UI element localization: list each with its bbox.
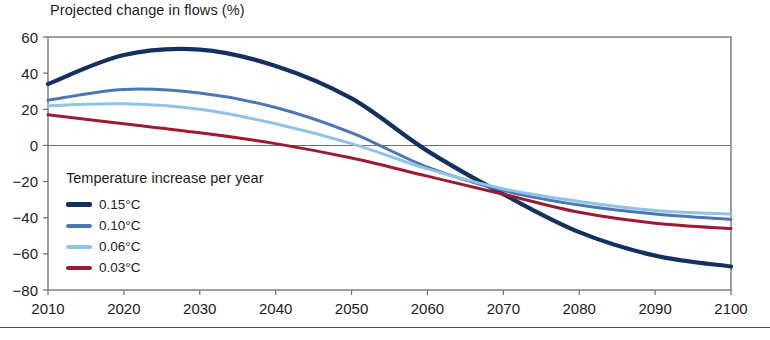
y-tick-label: 0 bbox=[30, 137, 38, 154]
y-tick-label: 40 bbox=[21, 65, 38, 82]
legend-item-0[interactable]: 0.15°C bbox=[66, 197, 140, 212]
series-line-0.10°C bbox=[48, 89, 731, 219]
y-axis-tick-marks bbox=[43, 37, 48, 290]
legend-label-1: 0.10°C bbox=[99, 218, 140, 233]
y-tick-label: −40 bbox=[13, 209, 38, 226]
x-tick-label: 2090 bbox=[638, 300, 671, 317]
x-tick-label: 2020 bbox=[107, 300, 140, 317]
x-tick-label: 2040 bbox=[259, 300, 292, 317]
plot-frame bbox=[48, 37, 731, 290]
x-axis-tick-marks bbox=[48, 290, 731, 295]
series-line-0.06°C bbox=[48, 104, 731, 214]
legend-swatch-0 bbox=[66, 202, 92, 207]
x-tick-label: 2070 bbox=[487, 300, 520, 317]
y-tick-label: −60 bbox=[13, 245, 38, 262]
y-axis-tick-labels: 6040200−20−40−60−80 bbox=[13, 29, 38, 299]
x-tick-label: 2060 bbox=[411, 300, 444, 317]
x-tick-label: 2030 bbox=[183, 300, 216, 317]
legend-swatch-2 bbox=[66, 245, 92, 249]
legend-item-1[interactable]: 0.10°C bbox=[66, 218, 140, 233]
legend-title: Temperature increase per year bbox=[66, 170, 263, 186]
x-axis-tick-labels: 2010202020302040205020602070208020902100 bbox=[31, 300, 747, 317]
legend-swatch-1 bbox=[66, 224, 92, 228]
legend-label-2: 0.06°C bbox=[99, 239, 140, 254]
x-tick-label: 2100 bbox=[714, 300, 747, 317]
legend-label-0: 0.15°C bbox=[99, 197, 140, 212]
y-tick-label: 60 bbox=[21, 29, 38, 46]
x-tick-label: 2050 bbox=[335, 300, 368, 317]
y-tick-label: −20 bbox=[13, 173, 38, 190]
figure-container: Projected change in flows (%) 6040200−20… bbox=[0, 0, 770, 340]
footer-divider bbox=[0, 327, 770, 329]
x-tick-label: 2010 bbox=[31, 300, 64, 317]
y-tick-label: −80 bbox=[13, 282, 38, 299]
legend-swatch-3 bbox=[66, 266, 92, 270]
legend-item-3[interactable]: 0.03°C bbox=[66, 260, 140, 275]
y-tick-label: 20 bbox=[21, 101, 38, 118]
x-tick-label: 2080 bbox=[563, 300, 596, 317]
legend-item-2[interactable]: 0.06°C bbox=[66, 239, 140, 254]
legend-label-3: 0.03°C bbox=[99, 260, 140, 275]
data-series-group bbox=[48, 49, 731, 267]
